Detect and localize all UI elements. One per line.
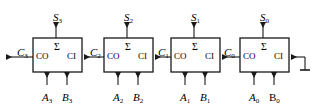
port-sum-stage-2: Σ [125, 42, 131, 52]
sum-label-stage-0: S0 [260, 8, 269, 25]
port-sum-stage-3: Σ [54, 42, 60, 52]
operand-label-b3: B3 [62, 88, 72, 105]
port-sum-stage-0: Σ [261, 42, 267, 52]
port-co-stage-3: CO [36, 52, 49, 61]
operand-label-b0: B0 [269, 88, 280, 105]
port-ci-stage-1: CI [205, 52, 214, 61]
operand-label-a3: A3 [42, 88, 52, 105]
operand-label-a2: A2 [113, 88, 123, 105]
adder-chain-diagram: CO Σ CI CO Σ CI CO Σ CI CO Σ CI S3 S2 S1… [0, 0, 319, 107]
sum-label-stage-2: S2 [124, 8, 133, 25]
operand-label-a1: A1 [180, 88, 190, 105]
port-ci-stage-3: CI [67, 52, 76, 61]
sum-label-stage-3: S3 [53, 8, 62, 25]
operand-label-b1: B1 [200, 88, 210, 105]
carry-in-ground-wire [291, 57, 305, 70]
port-co-stage-0: CO [243, 52, 256, 61]
carry-label-c1: C1 [158, 43, 169, 60]
carry-label-c0: C0 [224, 43, 235, 60]
port-co-stage-1: CO [174, 52, 187, 61]
carry-label-c2: C2 [90, 43, 101, 60]
port-sum-stage-1: Σ [192, 42, 198, 52]
operand-label-b2: B2 [133, 88, 143, 105]
port-ci-stage-0: CI [274, 52, 283, 61]
operand-label-a0: A0 [249, 88, 259, 105]
port-co-stage-2: CO [107, 52, 120, 61]
carry-label-c3: C3 [17, 43, 28, 60]
sum-label-stage-1: S1 [191, 8, 200, 25]
port-ci-stage-2: CI [138, 52, 147, 61]
